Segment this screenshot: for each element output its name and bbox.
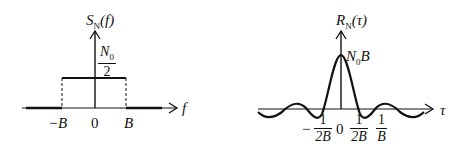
tick-pos-half-over-b: 12B [350,113,368,144]
tick-neg-sign: − [302,122,310,137]
left-plot-title: SN(f) [86,13,114,31]
right-plot-title: RN(τ) [336,13,367,31]
diagram-canvas [0,0,463,154]
tick-neg-b: −B [48,116,67,131]
psd-level-label: N0 2 [98,45,116,79]
peak-label: N0B [346,49,370,67]
tick-pos-b: B [124,116,133,131]
left-x-axis-label: f [182,101,186,116]
right-autocorr-plot [258,31,433,118]
tick-one-over-b: 1B [376,113,387,144]
right-x-axis-label: τ [440,103,445,118]
tick-zero-left: 0 [91,116,99,131]
tick-neg-half-over-b: 12B [314,113,332,144]
tick-zero-right: 0 [336,122,344,137]
